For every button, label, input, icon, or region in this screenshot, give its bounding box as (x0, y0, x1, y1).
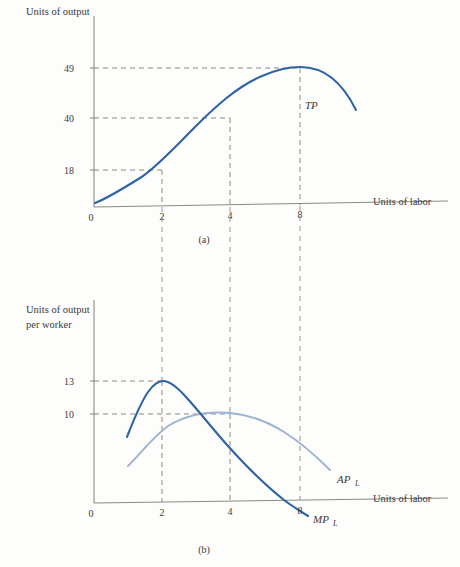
panel-b-x-axis-title: Units of labor (373, 493, 432, 504)
apl-curve (128, 413, 330, 470)
panel-b-xtick-label-8: 8 (298, 505, 303, 516)
panel-a-label: (a) (198, 234, 209, 246)
mpl-label-subscript: L (332, 519, 338, 528)
apl-curve-label: AP L (336, 473, 360, 488)
panel-b-xtick-label-4: 4 (228, 506, 233, 517)
panel-a: Units of output Units of labor 49 40 18 … (26, 6, 448, 246)
tp-curve (95, 67, 356, 203)
panel-a-x-axis-title: Units of labor (373, 196, 432, 207)
panel-b-y-axis-title-line1: Units of output (26, 304, 90, 315)
apl-label-subscript: L (354, 479, 360, 488)
panel-b-ytick-label-13: 13 (64, 376, 74, 387)
panel-a-ytick-label-18: 18 (64, 165, 74, 176)
mpl-curve-label: MP L (312, 513, 338, 528)
tp-curve-label: TP (305, 99, 318, 111)
panel-a-ytick-label-49: 49 (64, 63, 74, 74)
panel-b: Units of output per worker Units of labo… (26, 300, 448, 556)
panel-a-ytick-label-40: 40 (64, 113, 74, 124)
apl-label-text: AP (336, 473, 351, 485)
panel-b-label: (b) (198, 544, 210, 556)
panel-b-ytick-label-10: 10 (64, 409, 74, 420)
mpl-curve (127, 381, 308, 516)
panel-a-y-axis-title: Units of output (26, 6, 90, 17)
panel-b-origin-label: 0 (89, 508, 94, 519)
production-function-figure: Units of output Units of labor 49 40 18 … (0, 0, 460, 567)
panel-b-xtick-label-2: 2 (160, 507, 165, 518)
panel-a-origin-label: 0 (89, 212, 94, 223)
panel-b-y-axis-title-line2: per worker (26, 319, 72, 330)
inter-panel-connectors (162, 206, 300, 500)
mpl-label-text: MP (312, 513, 329, 525)
